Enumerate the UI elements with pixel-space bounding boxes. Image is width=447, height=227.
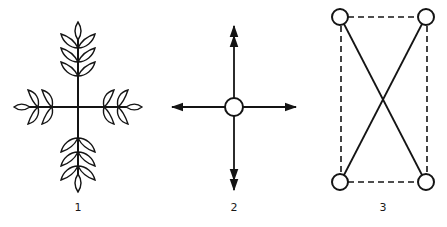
diagram-canvas: 1 2 3 [0, 0, 447, 227]
node-bottom-left [332, 174, 348, 190]
center-circle [225, 98, 243, 116]
node-bottom-right [418, 174, 434, 190]
figure-3-label: 3 [380, 201, 387, 214]
node-top-right [418, 9, 434, 25]
figure-1-label: 1 [75, 201, 82, 214]
figure-1-plant-cross [14, 22, 142, 192]
figure-3-dashed-rectangle-cross [332, 9, 434, 190]
node-top-left [332, 9, 348, 25]
figure-2-circle-arrows [172, 26, 296, 190]
figure-2-label: 2 [231, 201, 238, 214]
